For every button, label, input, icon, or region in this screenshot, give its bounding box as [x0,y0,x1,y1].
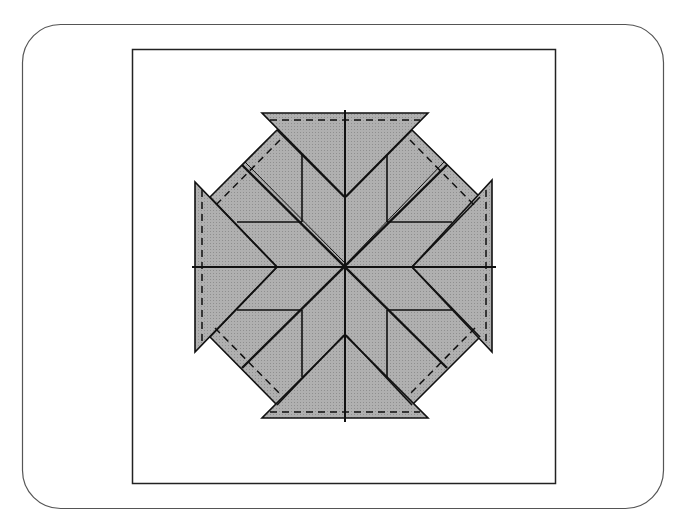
quilt-block-diagram [0,0,673,527]
